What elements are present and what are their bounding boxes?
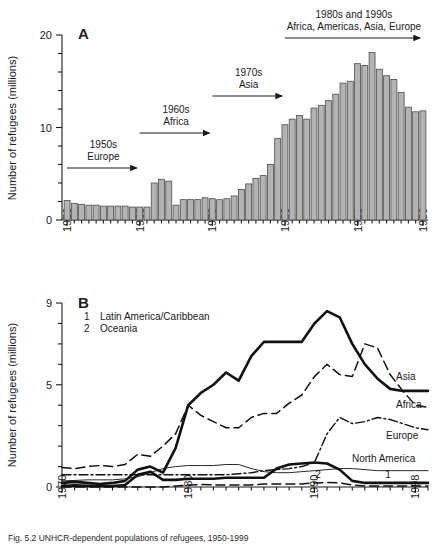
panel-a-bar (224, 199, 230, 220)
panel-b-legend-key: 1 (84, 311, 90, 322)
panel-b-plot: 059 1970198019901998 AsiaAfricaEuropeNor… (46, 297, 428, 499)
panel-a-bar (217, 200, 223, 220)
panel-a-bar (108, 206, 114, 220)
panel-a-bar (246, 184, 252, 220)
panel-a-bar (311, 108, 317, 220)
panel-b-y-tick-label: 0 (46, 481, 52, 493)
panel-b-series-label-latin-america-caribbean: 1 (385, 469, 391, 480)
panel-b-y-axis-title: Number of refugees (millions) (6, 323, 18, 467)
panel-a-bar (144, 207, 150, 220)
panel-a-letter: A (78, 25, 89, 42)
panel-a-y-tick-label: 10 (40, 122, 52, 134)
panel-b-legend-label: Oceania (100, 323, 138, 334)
panel-a-bar (202, 198, 208, 220)
panel-b-series-label-north-america: North America (352, 453, 416, 464)
panel-a-y-tick-label: 20 (40, 29, 52, 41)
panel-a-bar (318, 105, 324, 220)
panel-a-bar (398, 92, 404, 220)
panel-a-bar (362, 66, 368, 220)
panel-b-letter: B (78, 294, 89, 311)
panel-a-annotation-label: Europe (87, 151, 120, 162)
panel-b-series-label-oceania: 2 (315, 469, 321, 480)
panel-a-bar (173, 205, 179, 220)
panel-a-y-tick-label: 0 (46, 214, 52, 226)
panel-a-annotation-label: 1960s (162, 104, 189, 115)
panel-a-bar (231, 196, 237, 220)
panel-a-bar (304, 119, 310, 220)
panel-a-annotations: 1950sEurope1960sAfrica1970sAsia1980s and… (67, 9, 422, 168)
panel-b-y-tick-label: 9 (46, 297, 52, 309)
panel-a-bar (267, 165, 273, 221)
panel-a-bar (166, 181, 172, 220)
panel-a-bar (405, 107, 411, 220)
panel-a-bar (296, 115, 302, 220)
figure-container: 01020 195019601970198019901999 1950sEuro… (0, 0, 439, 544)
panel-a-bar (289, 119, 295, 220)
panel-a-bar (391, 79, 397, 220)
panel-a-annotation-label: 1980s and 1990s (316, 9, 393, 20)
panel-b-series-label-europe: Europe (386, 430, 419, 441)
panel-a: 01020 195019601970198019901999 1950sEuro… (0, 0, 439, 272)
panel-b: 059 1970198019901998 AsiaAfricaEuropeNor… (0, 272, 439, 534)
panel-b-y-ticks: 059 (46, 297, 62, 493)
panel-a-bar (115, 206, 121, 220)
panel-a-bar (413, 112, 419, 220)
panel-b-legend-key: 2 (84, 323, 90, 334)
panel-a-svg: 01020 195019601970198019901999 1950sEuro… (0, 0, 439, 272)
panel-a-bar (159, 179, 165, 220)
panel-a-annotation-label: Asia (239, 79, 259, 90)
panel-a-bar (260, 176, 266, 220)
panel-a-bar (137, 207, 143, 220)
panel-b-series-label-asia: Asia (396, 371, 416, 382)
panel-a-bar (151, 183, 157, 220)
panel-a-bar (420, 111, 426, 220)
panel-a-bar (122, 206, 128, 220)
panel-a-bar (188, 200, 194, 220)
panel-a-bar (384, 76, 390, 220)
panel-a-annotation-label: Africa, Americas, Asia, Europe (287, 21, 422, 32)
panel-a-annotation-label: 1950s (90, 139, 117, 150)
panel-b-series-label-africa: Africa (396, 399, 422, 410)
panel-a-bar (93, 205, 99, 220)
panel-a-bar (355, 64, 361, 220)
panel-a-bar (64, 201, 70, 220)
panel-a-annotation-label: 1970s (235, 67, 262, 78)
panel-a-bar (253, 178, 259, 220)
panel-a-bar (326, 101, 332, 220)
panel-a-bar (195, 200, 201, 220)
figure-caption: Fig. 5.2 UNHCR-dependent populations of … (8, 533, 438, 544)
panel-a-y-ticks: 01020 (40, 29, 62, 226)
panel-a-bar (100, 206, 106, 220)
panel-b-inline-legend: 1Latin America/Caribbean2Oceania (84, 311, 210, 334)
panel-a-bar (369, 53, 375, 220)
panel-a-bar (79, 204, 85, 220)
panel-a-bar (376, 69, 382, 220)
panel-a-bar (180, 200, 186, 220)
panel-a-plot: 01020 195019601970198019901999 1950sEuro… (40, 9, 429, 232)
panel-b-legend-label: Latin America/Caribbean (100, 311, 210, 322)
panel-b-y-tick-label: 5 (46, 379, 52, 391)
panel-a-y-axis-title: Number of refugees (millions) (6, 56, 18, 200)
panel-a-bar (333, 94, 339, 220)
panel-b-svg: 059 1970198019901998 AsiaAfricaEuropeNor… (0, 272, 439, 534)
panel-a-bar (282, 125, 288, 220)
panel-b-x-tick-label: 1998 (409, 475, 421, 499)
panel-b-line-africa (62, 344, 428, 469)
panel-a-bar (71, 203, 77, 220)
panel-a-bar (238, 189, 244, 220)
panel-b-series-labels: AsiaAfricaEuropeNorth America12 (315, 371, 422, 481)
panel-a-annotation-label: Africa (163, 116, 189, 127)
panel-a-bar (129, 207, 135, 220)
panel-a-bar (86, 205, 92, 220)
panel-a-bar (340, 83, 346, 220)
panel-a-bar (209, 199, 215, 220)
panel-a-bar (275, 139, 281, 220)
panel-a-bar (347, 81, 353, 220)
